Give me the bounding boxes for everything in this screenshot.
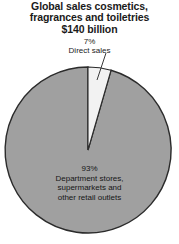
retail-percent: 93% [14, 164, 165, 174]
retail-label-line-3: other retail outlets [14, 193, 165, 203]
retail-slice-label: 93% Department stores, supermarkets and … [14, 164, 165, 202]
pie-graphic [0, 0, 179, 244]
retail-label-line-2: supermarkets and [14, 183, 165, 193]
retail-label-line-1: Department stores, [14, 174, 165, 184]
pie-chart-figure: Global sales cosmetics, fragrances and t… [0, 0, 179, 244]
